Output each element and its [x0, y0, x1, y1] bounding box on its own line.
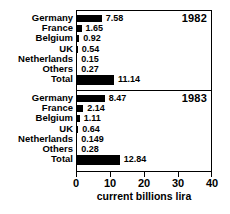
value-label-1983-total: 12.84	[124, 154, 147, 164]
bar-1982-belgium	[76, 35, 79, 42]
value-label-1982-germany: 7.58	[106, 13, 124, 23]
category-label-total: Total	[51, 74, 73, 84]
bar-1982-germany	[76, 15, 102, 22]
value-label-1982-france: 1.65	[86, 23, 104, 33]
bar-1982-uk	[76, 46, 78, 53]
value-label-1983-france: 2.14	[87, 103, 105, 113]
x-tick-label: 40	[206, 177, 218, 189]
bar-1982-others	[76, 66, 77, 73]
bar-1983-france	[76, 105, 83, 112]
x-tick-label: 20	[138, 177, 150, 189]
bar-1982-netherlands	[76, 56, 77, 63]
value-label-1982-netherlands: 0.15	[81, 54, 99, 64]
bar-1983-others	[76, 146, 77, 153]
bar-1983-germany	[76, 95, 105, 102]
bar-row: Total11.14	[76, 75, 212, 85]
value-label-1982-belgium: 0.92	[83, 33, 101, 43]
x-axis: 010203040	[76, 172, 212, 178]
value-label-1983-netherlands: 0.149	[81, 134, 104, 144]
bar-row: Others0.27	[76, 65, 212, 75]
value-label-1983-belgium: 1.11	[84, 113, 101, 123]
category-label-belgium: Belgium	[36, 33, 73, 43]
value-label-1983-others: 0.28	[81, 144, 99, 154]
category-label-belgium: Belgium	[36, 113, 73, 123]
value-label-1983-uk: 0.64	[82, 124, 100, 134]
bar-row: Total12.84	[76, 155, 212, 165]
value-label-1983-germany: 8.47	[109, 93, 127, 103]
bar-1982-france	[76, 25, 82, 32]
bar-1983-uk	[76, 126, 78, 133]
bar-1983-total	[76, 155, 120, 165]
value-label-1982-uk: 0.54	[82, 44, 100, 54]
value-label-1982-total: 11.14	[118, 74, 140, 84]
category-label-total: Total	[51, 154, 73, 164]
x-tick-label: 10	[104, 177, 116, 189]
x-tick-label: 0	[73, 177, 79, 189]
value-label-1982-others: 0.27	[81, 64, 99, 74]
bar-1983-netherlands	[76, 136, 77, 143]
x-axis-title: current billions lira	[76, 190, 212, 202]
bar-1982-total	[76, 75, 114, 85]
bar-chart-figure: 1982 1983 Germany7.58France1.65Belgium0.…	[0, 0, 230, 214]
bar-1983-belgium	[76, 115, 80, 122]
x-tick-label: 30	[172, 177, 184, 189]
